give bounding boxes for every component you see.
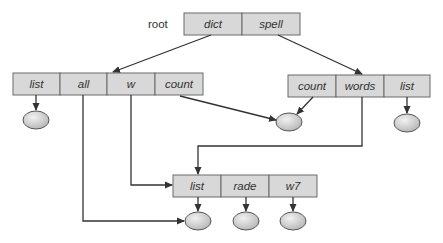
dict-entry-count: count [165,78,194,90]
edge-dict-all-to-shared-file [83,95,184,221]
dict-entry-w: w [127,78,136,90]
file-node-w7 [280,212,306,230]
spell-directory: count words list [288,75,430,97]
edge-dict-w-to-shared-dir [131,95,172,185]
spell-entry-words: words [345,80,376,92]
directory-graph: root dict spell list all w count count w… [0,0,443,243]
shared-entry-rade: rade [233,180,256,192]
dict-directory: list all w count [13,73,203,95]
file-node-rade [233,212,259,230]
file-node-count [276,113,302,131]
edge-spell-words-to-shared-dir [198,97,362,174]
root-entry-spell: spell [259,18,283,30]
edge-dict-to-dict-dir [113,35,211,72]
edge-spell-to-spell-dir [278,35,362,74]
root-entry-dict: dict [204,18,223,30]
file-node-shared-list [185,212,211,230]
shared-entry-list: list [190,180,205,192]
root-label: root [148,18,169,30]
dict-entry-list: list [29,78,44,90]
root-directory: dict spell [184,13,300,35]
edge-spell-count-to-file [297,97,313,114]
shared-directory: list rade w7 [173,175,317,197]
shared-entry-w7: w7 [286,180,301,192]
file-node-spell-list [394,114,420,132]
spell-entry-list: list [400,80,415,92]
file-node-dict-list [23,111,49,129]
spell-entry-count: count [298,80,327,92]
dict-entry-all: all [78,78,90,90]
edge-dict-count-to-file [180,96,276,120]
